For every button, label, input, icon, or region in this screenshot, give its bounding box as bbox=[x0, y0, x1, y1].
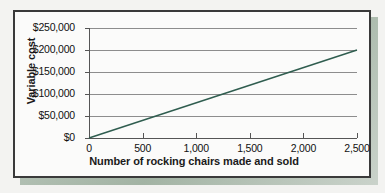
x-axis-line bbox=[89, 138, 357, 139]
series-line-layer bbox=[89, 28, 357, 138]
x-tick-label: 0 bbox=[62, 142, 116, 154]
plot-area: $0$50,000$100,000$150,000$200,000$250,00… bbox=[89, 28, 357, 138]
y-tick-label: $50,000 bbox=[5, 109, 75, 121]
figure-root: Variable cost Number of rocking chairs m… bbox=[0, 0, 385, 193]
x-tick-label: 1,000 bbox=[169, 142, 223, 154]
chart-frame: Variable cost Number of rocking chairs m… bbox=[13, 10, 371, 178]
x-tick-label: 2,500 bbox=[330, 142, 384, 154]
x-tick-label: 500 bbox=[116, 142, 170, 154]
x-tick-label: 2,000 bbox=[276, 142, 330, 154]
y-tick-label: $150,000 bbox=[5, 65, 75, 77]
x-tick-mark bbox=[357, 133, 358, 138]
series-line bbox=[89, 50, 357, 138]
y-tick-label: $100,000 bbox=[5, 87, 75, 99]
x-axis-title: Number of rocking chairs made and sold bbox=[15, 155, 373, 167]
x-tick-label: 1,500 bbox=[223, 142, 277, 154]
y-tick-label: $200,000 bbox=[5, 43, 75, 55]
y-tick-label: $250,000 bbox=[5, 21, 75, 33]
